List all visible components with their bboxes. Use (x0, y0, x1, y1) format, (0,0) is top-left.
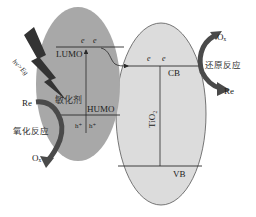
sensitizer-hole-2: h⁺ (89, 122, 97, 130)
sensitizer-hole-1: h⁺ (75, 122, 83, 130)
oxidation-reactant-label: Re (22, 98, 32, 108)
oxidation-arrowhead (40, 156, 54, 168)
reduction-reaction-label: 还原反应 (205, 60, 241, 70)
cb-label: CB (168, 68, 180, 78)
light-energy-label: hν>Eg (11, 58, 31, 78)
sensitizer-electron-2: e (93, 36, 97, 45)
vb-label: VB (173, 169, 186, 179)
sensitizer-electron-1: e (81, 36, 85, 45)
tio2-electron-2: e (162, 54, 166, 63)
sensitizer-label: 敏化剂 (55, 94, 82, 105)
oxidation-reaction-label: 氧化反应 (13, 126, 49, 136)
tio2-label: TiO₂ (147, 111, 157, 128)
tio2-ellipse (116, 23, 206, 205)
tio2-electron-1: e (147, 54, 151, 63)
oxidation-product-label: Oₓ (32, 153, 41, 163)
dye-sensitization-diagram: e e LUMO 敏化剂 HUMO h⁺ h⁺ e e CB TiO₂ VB h… (0, 0, 256, 217)
reduction-product-label: Re (224, 86, 234, 96)
lumo-label: LUMO (56, 49, 83, 59)
reduction-reactant-label: Oₓ (217, 32, 226, 42)
humo-label: HUMO (87, 104, 115, 114)
